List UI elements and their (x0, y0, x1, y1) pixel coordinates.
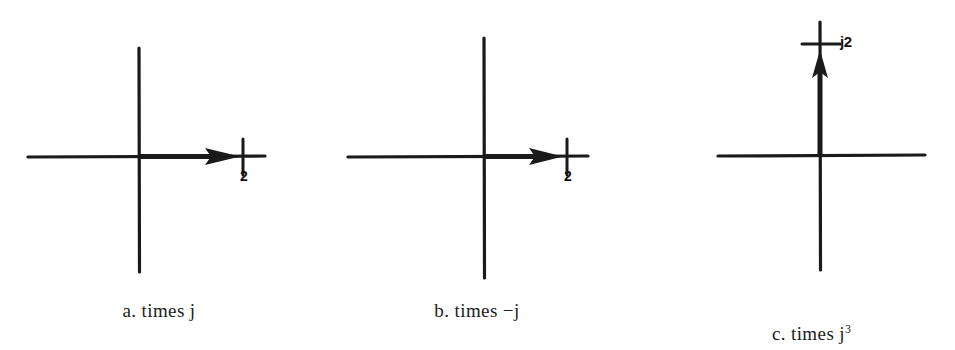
panel-c: c. times j3 j2 (637, 0, 955, 350)
panel-b-caption: b. times −j (318, 300, 636, 322)
panel-c-caption: c. times j3 (637, 300, 955, 350)
panel-c-magnitude-label: j2 (840, 33, 880, 50)
imaginary-axis-line (139, 48, 140, 272)
panel-a-magnitude-label: 2 (228, 168, 260, 184)
panel-b: b. times −j 2 (318, 0, 636, 350)
panel-c-diagram (637, 0, 955, 300)
panel-a-caption: a. times j (0, 300, 318, 322)
panel-c-caption-exponent: 3 (845, 322, 851, 336)
panel-a: a. times j 2 (0, 0, 318, 350)
panel-b-magnitude-label: 2 (552, 168, 584, 184)
panel-a-diagram (0, 0, 318, 300)
panel-b-diagram (318, 0, 636, 300)
panel-c-caption-text: c. times j (772, 323, 845, 344)
figure-complex-plane-panels: a. times j 2 b. times −j 2 (0, 0, 955, 350)
